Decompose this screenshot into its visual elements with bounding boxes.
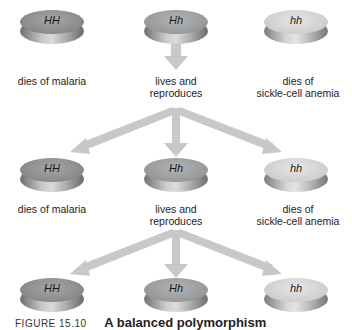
- genotype-label: Hh: [144, 14, 208, 26]
- disc-HH-gen1: HH: [20, 10, 84, 44]
- figure-number: FIGURE 15.10: [15, 318, 87, 329]
- disc-hh-gen3: hh: [264, 278, 328, 312]
- arrow-split-2-icon: [70, 229, 282, 278]
- outcome-HH-gen1: dies of malaria: [0, 75, 104, 87]
- disc-Hh-gen3: Hh: [144, 278, 208, 312]
- outcome-hh-gen2: dies of sickle-cell anemia: [246, 203, 350, 227]
- arrow-split-1-icon: [70, 107, 282, 157]
- arrow-down-icon: [164, 42, 188, 70]
- genotype-label: HH: [20, 162, 84, 174]
- outcome-hh-gen1: dies of sickle-cell anemia: [246, 75, 350, 99]
- genotype-label: hh: [264, 282, 328, 294]
- disc-HH-gen3: HH: [20, 278, 84, 312]
- genotype-label: hh: [264, 14, 328, 26]
- outcome-Hh-gen2: lives and reproduces: [126, 203, 226, 227]
- genotype-label: Hh: [144, 282, 208, 294]
- genotype-label: Hh: [144, 162, 208, 174]
- disc-hh-gen1: hh: [264, 10, 328, 44]
- genotype-label: hh: [264, 162, 328, 174]
- genotype-label: HH: [20, 282, 84, 294]
- disc-hh-gen2: hh: [264, 158, 328, 192]
- figure-caption: FIGURE 15.10 A balanced polymorphism: [15, 315, 266, 330]
- outcome-HH-gen2: dies of malaria: [0, 203, 104, 215]
- outcome-Hh-gen1: lives and reproduces: [126, 75, 226, 99]
- genotype-label: HH: [20, 14, 84, 26]
- disc-Hh-gen2: Hh: [144, 158, 208, 192]
- disc-Hh-gen1: Hh: [144, 10, 208, 44]
- figure-title: A balanced polymorphism: [104, 315, 266, 330]
- disc-HH-gen2: HH: [20, 158, 84, 192]
